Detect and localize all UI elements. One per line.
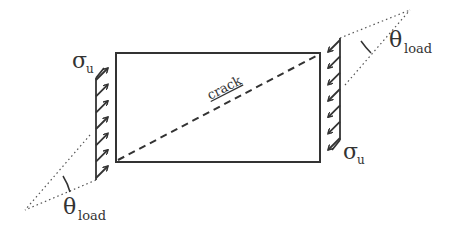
right-shear-arrow [328,122,340,134]
crack-load-diagram: crack σ u σ u θ load θ load [0,0,451,239]
theta-subscript: load [404,41,432,56]
crack-label: crack [205,73,244,103]
left-shear-arrows [96,68,108,180]
left-stress-label: σ u [72,48,94,76]
left-shear-arrow [96,84,108,96]
right-shear-arrow [328,105,340,117]
theta-symbol: θ [63,194,76,219]
sigma-symbol: σ [343,139,358,164]
left-dotted-line-b [25,180,96,210]
left-angle-arc [63,176,70,192]
right-shear-arrow [328,56,340,68]
left-shear-arrow [96,101,108,113]
sigma-subscript: u [357,153,365,167]
crack-line [118,55,318,160]
right-shear-arrow [328,40,340,52]
right-angle-label: θ load [389,27,432,56]
left-dotted-line-a [25,135,90,210]
sigma-symbol: σ [72,48,87,73]
theta-symbol: θ [389,27,402,52]
right-stress-label: σ u [343,139,365,167]
left-shear-arrow [96,133,108,145]
left-shear-arrow [96,166,108,178]
left-angle-label: θ load [63,194,106,223]
right-angle-arc [361,41,371,53]
theta-subscript: load [78,208,106,223]
left-shear-arrow [96,117,108,129]
right-shear-arrow [328,73,340,85]
right-shear-arrows [328,38,340,150]
sigma-subscript: u [86,62,94,76]
load-direction-lines [25,10,410,210]
right-shear-arrow [328,89,340,101]
left-shear-arrow [96,150,108,162]
